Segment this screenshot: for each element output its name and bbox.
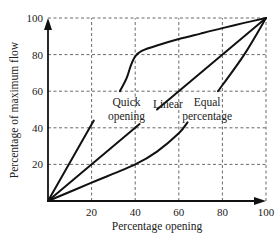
line-equal-percentage-segment-1 xyxy=(48,122,188,201)
annotations: QuickopeningLinearEqualpercentage xyxy=(108,96,232,123)
line-linear-segment-1 xyxy=(48,124,140,201)
x-tick-label: 80 xyxy=(217,206,229,218)
x-axis-arrowhead xyxy=(254,197,266,205)
x-tick-label: 60 xyxy=(173,206,185,218)
annotation-equal-percentage: Equalpercentage xyxy=(182,96,232,123)
y-tick-label: 80 xyxy=(32,49,44,61)
x-tick-label: 100 xyxy=(258,206,275,218)
y-tick-label: 60 xyxy=(32,85,44,97)
y-tick-label: 20 xyxy=(32,158,44,170)
annotation-linear: Linear xyxy=(153,98,183,110)
chart: 2040608010020406080100 QuickopeningLinea… xyxy=(0,0,280,238)
line-quick-opening-segment-1 xyxy=(48,121,94,202)
x-tick-label: 20 xyxy=(86,206,98,218)
y-axis-label: Percentage of maximum flow xyxy=(8,41,21,178)
y-tick-label: 40 xyxy=(32,122,44,134)
y-axis-arrowhead xyxy=(44,18,52,30)
x-tick-label: 40 xyxy=(130,206,142,218)
y-tick-label: 100 xyxy=(27,12,44,24)
x-axis-label: Percentage opening xyxy=(112,220,203,233)
annotation-quick-opening: Quickopening xyxy=(108,96,145,123)
